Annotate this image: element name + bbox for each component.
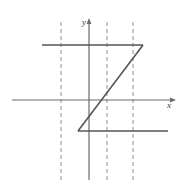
figure-container: x y <box>0 0 183 188</box>
x-axis-label: x <box>166 100 171 110</box>
figure-background <box>0 0 183 188</box>
y-axis-label: y <box>81 17 86 27</box>
graph-canvas: x y <box>0 0 183 188</box>
